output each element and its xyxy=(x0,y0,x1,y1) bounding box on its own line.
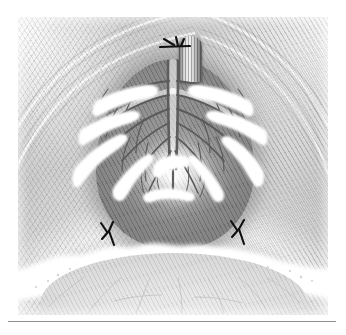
caption-rule xyxy=(8,321,336,322)
figure-page xyxy=(0,0,346,335)
right-corner-suture xyxy=(231,220,244,244)
figure-plate xyxy=(18,17,328,315)
stump-tie-suture xyxy=(160,37,190,47)
suture-layer xyxy=(18,17,328,315)
left-corner-suture xyxy=(101,222,114,245)
